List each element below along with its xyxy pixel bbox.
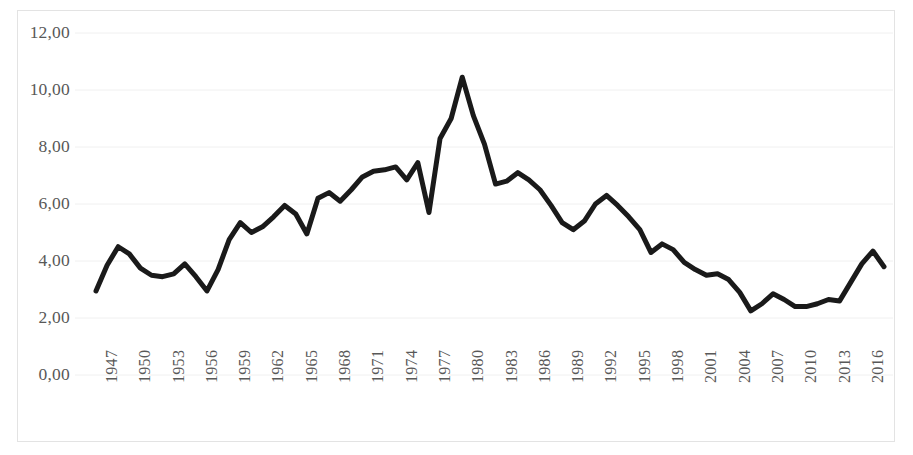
y-axis-tick-label: 6,00: [10, 193, 70, 214]
x-axis-tick-label: 1992: [602, 350, 620, 383]
x-axis-tick-label: 1953: [170, 350, 188, 383]
line-chart: 0,002,004,006,008,0010,0012,00 194719501…: [0, 0, 913, 455]
x-axis-tick-label: 1950: [136, 350, 154, 383]
x-axis-tick-label: 2016: [869, 350, 887, 383]
x-axis-tick-label: 2010: [802, 350, 820, 383]
gridlines: [75, 33, 893, 375]
x-axis-tick-label: 2013: [836, 350, 854, 383]
x-axis-tick-label: 1968: [336, 350, 354, 383]
y-axis-tick-label: 12,00: [10, 22, 70, 43]
y-axis-tick-label: 10,00: [10, 79, 70, 100]
x-axis-tick-label: 1986: [536, 350, 554, 383]
y-axis-tick-label: 4,00: [10, 250, 70, 271]
x-axis-tick-label: 1947: [103, 350, 121, 383]
y-axis-tick-label: 8,00: [10, 136, 70, 157]
x-axis-tick-label: 1995: [636, 350, 654, 383]
chart-plot-area: [0, 0, 913, 455]
x-axis-tick-label: 1974: [403, 350, 421, 383]
x-axis-tick-label: 1977: [436, 350, 454, 383]
y-axis-tick-label: 0,00: [10, 364, 70, 385]
data-series-line: [96, 77, 884, 311]
x-axis-tick-label: 1980: [469, 350, 487, 383]
x-axis-tick-label: 1959: [236, 350, 254, 383]
x-axis-tick-label: 2001: [702, 350, 720, 383]
x-axis-tick-label: 2007: [769, 350, 787, 383]
x-axis-tick-label: 1956: [203, 350, 221, 383]
x-axis-tick-label: 1965: [303, 350, 321, 383]
x-axis-tick-label: 1989: [569, 350, 587, 383]
x-axis-tick-label: 1962: [269, 350, 287, 383]
x-axis-tick-label: 1998: [669, 350, 687, 383]
y-axis-tick-label: 2,00: [10, 307, 70, 328]
x-axis-tick-label: 1983: [503, 350, 521, 383]
x-axis-tick-label: 2004: [736, 350, 754, 383]
x-axis-tick-label: 1971: [369, 350, 387, 383]
